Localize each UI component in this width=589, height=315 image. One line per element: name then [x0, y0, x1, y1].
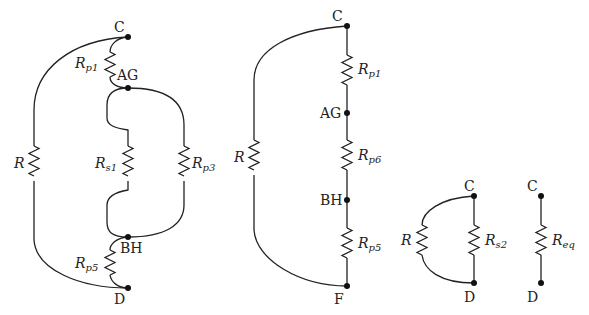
label-rp5: Rp5: [357, 235, 381, 253]
label-node-c: C: [332, 8, 343, 24]
node-c: [538, 193, 544, 199]
label-node-d: D: [527, 289, 538, 305]
label-req: Req: [551, 232, 575, 250]
label-node-c: C: [527, 178, 538, 194]
node-c: [344, 23, 350, 29]
label-node-d: D: [464, 289, 475, 305]
resistor-rp1-zigzag: [105, 52, 115, 77]
diagram-4-equivalent-circuit: C D Req: [527, 178, 575, 305]
wire-c-to-r: [254, 26, 347, 140]
node-ag: [125, 85, 131, 91]
label-rs1: Rs1: [94, 155, 117, 173]
resistor-rs2-zigzag: [469, 225, 479, 255]
resistor-r-zigzag: [249, 140, 259, 170]
node-d: [538, 280, 544, 286]
label-node-bh: BH: [120, 240, 143, 256]
label-rp1: Rp1: [357, 61, 381, 79]
wire-rs1-to-bh: [107, 181, 128, 237]
label-r: R: [400, 232, 412, 248]
resistor-rs1-zigzag: [123, 146, 133, 176]
node-ag: [344, 110, 350, 116]
label-rp5: Rp5: [74, 255, 98, 273]
node-d: [471, 280, 477, 286]
resistor-rp5-zigzag: [342, 228, 352, 258]
wire-ag-to-rs1: [107, 88, 128, 146]
resistor-r-zigzag: [417, 225, 427, 255]
node-f: [344, 283, 350, 289]
label-node-ag: AG: [116, 67, 138, 83]
resistor-rp1-zigzag: [342, 55, 352, 85]
wire-c-to-r: [422, 196, 474, 225]
label-node-bh: BH: [320, 192, 343, 208]
label-rp1: Rp1: [74, 55, 98, 73]
wire-ag-to-rp3: [128, 88, 184, 146]
diagram-1-original-circuit: C AG BH D R Rp1 Rs1 Rp3 Rp5: [13, 19, 215, 307]
wire-c-to-rp1: [110, 37, 128, 52]
node-bh: [344, 197, 350, 203]
wire-r-to-d: [422, 255, 474, 283]
node-c: [125, 34, 131, 40]
label-r: R: [233, 149, 245, 165]
resistor-req-zigzag: [536, 225, 546, 255]
label-node-ag: AG: [319, 105, 341, 121]
circuit-diagrams: C AG BH D R Rp1 Rs1 Rp3 Rp5 C AG BH: [0, 0, 589, 315]
wire-rp3-to-bh: [128, 181, 184, 237]
label-rs2: Rs2: [484, 232, 507, 250]
resistor-rp6-zigzag: [342, 140, 352, 170]
label-node-c: C: [114, 19, 125, 35]
diagram-2-simplified-circuit: C AG BH F R Rp1 Rp6 Rp5: [233, 8, 382, 307]
label-node-f: F: [334, 291, 344, 307]
label-r: R: [13, 155, 25, 171]
label-rp6: Rp6: [357, 147, 382, 165]
resistor-rp5-zigzag: [105, 250, 115, 275]
node-d: [125, 285, 131, 291]
label-node-c: C: [464, 178, 475, 194]
label-node-d: D: [114, 291, 125, 307]
resistor-rp3-zigzag: [179, 146, 189, 176]
label-rp3: Rp3: [191, 155, 215, 173]
diagram-3-parallel-circuit: C D R Rs2: [400, 178, 507, 305]
wire-rp5-to-d: [110, 275, 128, 288]
resistor-r-zigzag: [29, 146, 39, 176]
